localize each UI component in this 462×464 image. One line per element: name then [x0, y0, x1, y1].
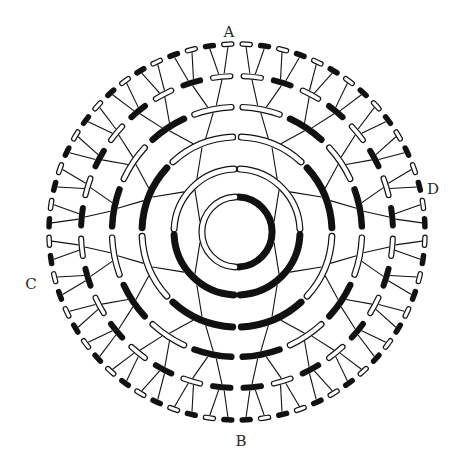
connector-line	[252, 359, 258, 385]
connector-line	[140, 114, 162, 128]
segment-black	[330, 69, 337, 73]
segment-black	[422, 256, 423, 264]
connector-line	[78, 137, 98, 155]
connector-line	[140, 336, 162, 350]
connector-line	[286, 58, 300, 81]
connector-line	[305, 97, 310, 123]
connector-line	[102, 300, 128, 305]
connector-line	[192, 52, 193, 79]
connector-line	[57, 187, 84, 188]
segment-black	[241, 302, 301, 327]
connector-line	[272, 285, 277, 317]
connector-line	[102, 160, 128, 165]
segment-white	[142, 236, 167, 296]
connector-line	[142, 371, 160, 391]
segment-black	[314, 400, 321, 403]
segment-black	[274, 80, 291, 85]
connector-line	[346, 300, 372, 305]
label-a: A	[223, 23, 235, 41]
segment-white	[279, 49, 287, 51]
connector-line	[388, 170, 411, 184]
segment-white	[173, 137, 233, 162]
connector-line	[274, 242, 279, 274]
connector-line	[119, 307, 133, 329]
segment-black	[74, 325, 78, 332]
segment-white	[297, 408, 304, 411]
segment-black	[391, 208, 393, 225]
segment-black	[142, 168, 167, 228]
connector-line	[216, 359, 222, 385]
connector-line	[255, 390, 264, 415]
connector-line	[266, 357, 281, 379]
segment-white	[413, 165, 416, 172]
connector-line	[286, 383, 300, 406]
connector-line	[175, 58, 189, 81]
connector-line	[158, 373, 165, 399]
segment-black	[84, 117, 89, 123]
connector-line	[281, 385, 282, 412]
connector-line	[165, 341, 170, 367]
segment-black	[261, 45, 269, 46]
connector-line	[314, 371, 332, 391]
segment-black	[384, 269, 389, 286]
connector-line	[52, 241, 79, 245]
segment-black	[153, 400, 160, 403]
segment-black	[307, 168, 332, 228]
segment-white	[137, 391, 144, 395]
label-b: B	[235, 432, 246, 450]
segment-white	[314, 60, 321, 63]
segment-white	[205, 417, 213, 418]
connector-line	[395, 205, 420, 214]
connector-line	[136, 164, 149, 188]
connector-line	[197, 147, 202, 179]
connector-line	[325, 276, 338, 300]
segment-black	[65, 148, 68, 155]
connector-line	[206, 113, 214, 139]
segment-black	[50, 256, 51, 264]
segment-white	[50, 200, 51, 208]
connector-line	[63, 170, 86, 184]
segment-black	[346, 381, 352, 386]
connector-line	[281, 131, 305, 144]
connector-line	[224, 390, 228, 417]
connector-line	[314, 73, 332, 93]
connector-line	[70, 153, 96, 160]
connector-line	[216, 80, 222, 106]
segment-black	[122, 381, 128, 386]
connector-line	[274, 190, 279, 222]
connector-line	[169, 320, 193, 333]
connector-line	[158, 65, 165, 91]
segment-black	[59, 292, 62, 299]
connector-line	[390, 276, 417, 277]
segment-white	[187, 49, 195, 51]
segment-white	[85, 178, 90, 195]
connector-line	[290, 267, 322, 272]
segment-white	[244, 76, 261, 78]
segment-white	[391, 239, 393, 256]
connector-line	[152, 192, 184, 197]
label-c: C	[25, 275, 36, 293]
segment-black	[137, 69, 144, 73]
connector-line	[395, 241, 422, 245]
connector-line	[390, 187, 417, 188]
connector-lines	[52, 47, 422, 417]
connector-line	[330, 256, 356, 264]
segment-white	[405, 309, 408, 316]
connector-line	[142, 73, 160, 93]
segment-black	[187, 413, 195, 415]
connector-line	[252, 80, 258, 106]
connector-line	[358, 335, 374, 356]
connector-line	[290, 192, 322, 197]
connector-line	[364, 247, 390, 253]
segment-white	[418, 274, 420, 282]
connector-line	[362, 331, 386, 343]
connector-line	[118, 256, 144, 264]
segment-white	[84, 341, 89, 347]
connector-line	[113, 95, 134, 111]
connector-line	[305, 341, 310, 367]
connector-line	[175, 383, 189, 406]
segment-black	[396, 325, 400, 332]
connector-line	[261, 113, 269, 139]
segment-black	[170, 54, 177, 57]
connector-line	[388, 281, 411, 295]
